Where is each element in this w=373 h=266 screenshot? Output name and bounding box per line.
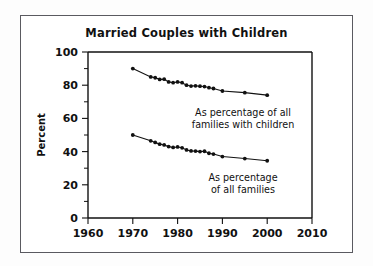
data-point bbox=[265, 93, 269, 97]
data-point bbox=[162, 143, 166, 147]
data-point bbox=[131, 67, 135, 71]
upper-annotation-line-1: As percentage of all bbox=[195, 107, 291, 118]
data-point bbox=[158, 77, 162, 81]
data-point bbox=[185, 83, 189, 87]
data-point bbox=[153, 141, 157, 145]
data-point bbox=[198, 150, 202, 154]
data-point bbox=[180, 81, 184, 85]
data-point bbox=[265, 159, 269, 163]
data-point bbox=[176, 145, 180, 149]
data-point bbox=[203, 149, 207, 153]
data-point bbox=[243, 157, 247, 161]
lower-annotation-line-2: of all families bbox=[211, 184, 275, 195]
data-point bbox=[171, 146, 175, 150]
x-tick-label-1970: 1970 bbox=[117, 227, 148, 240]
data-point bbox=[185, 148, 189, 152]
data-point bbox=[243, 91, 247, 95]
data-point bbox=[212, 152, 216, 156]
y-tick-label-60: 60 bbox=[63, 112, 79, 125]
y-axis-ticks bbox=[82, 52, 88, 218]
x-tick-label-1980: 1980 bbox=[162, 227, 193, 240]
data-point bbox=[194, 149, 198, 153]
data-point bbox=[167, 145, 171, 149]
x-tick-label-1960: 1960 bbox=[73, 227, 104, 240]
data-point bbox=[162, 77, 166, 81]
x-tick-label-1990: 1990 bbox=[207, 227, 238, 240]
upper-annotation-line-2: families with children bbox=[192, 119, 294, 130]
y-tick-label-40: 40 bbox=[63, 146, 79, 159]
data-point bbox=[198, 84, 202, 88]
lower-annotation-line-1: As percentage bbox=[208, 172, 277, 183]
data-point bbox=[176, 80, 180, 84]
series-markers-upper bbox=[131, 67, 269, 97]
x-axis-ticks bbox=[88, 218, 312, 224]
y-tick-label-0: 0 bbox=[70, 212, 78, 225]
data-point bbox=[180, 146, 184, 150]
series-line-upper bbox=[133, 69, 267, 96]
upper-series-annotation: As percentage of all families with child… bbox=[192, 107, 294, 130]
data-point bbox=[153, 76, 157, 80]
x-tick-label-2010: 2010 bbox=[297, 227, 328, 240]
plot-area: 100 80 60 40 20 0 Percent 1960 1970 1980… bbox=[0, 0, 373, 266]
y-tick-label-80: 80 bbox=[63, 79, 79, 92]
chart-figure: Married Couples with Children 100 80 60 … bbox=[0, 0, 373, 266]
data-point bbox=[158, 142, 162, 146]
data-point bbox=[149, 139, 153, 143]
data-point bbox=[131, 133, 135, 137]
data-point bbox=[221, 155, 225, 159]
y-axis-title: Percent bbox=[36, 113, 47, 157]
x-tick-label-2000: 2000 bbox=[252, 227, 283, 240]
data-point bbox=[203, 85, 207, 89]
data-point bbox=[189, 84, 193, 88]
series-line-lower bbox=[133, 135, 267, 161]
data-point bbox=[149, 75, 153, 79]
data-point bbox=[194, 84, 198, 88]
series-markers-lower bbox=[131, 133, 269, 163]
data-point bbox=[171, 81, 175, 85]
data-point bbox=[207, 151, 211, 155]
data-point bbox=[212, 87, 216, 91]
data-point bbox=[221, 89, 225, 93]
y-tick-label-20: 20 bbox=[63, 179, 79, 192]
lower-series-annotation: As percentage of all families bbox=[208, 172, 277, 195]
y-tick-label-100: 100 bbox=[55, 46, 78, 59]
data-point bbox=[207, 86, 211, 90]
data-point bbox=[167, 80, 171, 84]
data-point bbox=[189, 149, 193, 153]
